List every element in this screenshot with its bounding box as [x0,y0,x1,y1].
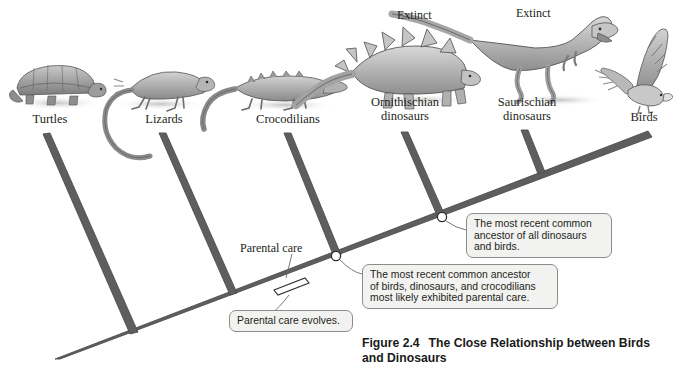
callout-archosaur-ancestor: The most recent common ancestor of birds… [362,264,558,309]
leader-archosaur-ancestor [340,260,362,274]
callout-line: and birds. [474,241,605,253]
leader-parental-care-label [286,254,292,278]
callout-line: of birds, dinosaurs, and crocodilians [370,281,551,293]
leader-dinosaur-bird-ancestor [446,221,466,230]
tip-label-saurischian-line1: Saurischian [498,95,556,109]
parental-care-marker [274,278,309,295]
callout-line: most likely exhibited parental care. [370,292,551,304]
callout-line: The most recent common [474,218,605,230]
branch-lizards [159,133,237,295]
callout-line: The most recent common ancestor [370,269,551,281]
callout-line: Parental care evolves. [237,315,346,327]
extinct-label-saurischian: Extinct [516,6,551,21]
branch-ornithischian [401,132,446,220]
tip-label-ornithischian-dinosaurs: Ornithischian dinosaurs [360,96,450,123]
figure-caption-number: Figure 2.4 [362,336,420,350]
figure-caption: Figure 2.4The Close Relationship between… [362,336,650,366]
tip-label-saurischian-dinosaurs: Saurischian dinosaurs [484,96,570,123]
tip-label-turtles: Turtles [17,113,83,127]
node-archosaur-ancestor [331,251,340,260]
branch-turtles [43,133,138,334]
tip-label-lizards: Lizards [131,113,197,127]
callout-line: ancestor of all dinosaurs [474,230,605,242]
parental-care-trait-label: Parental care [240,241,302,256]
figure-caption-title-line2: and Dinosaurs [362,351,650,366]
tip-label-crocodilians: Crocodilians [240,113,336,127]
branch-crocodilians [284,133,341,257]
callout-dinosaur-bird-ancestor: The most recent common ancestor of all d… [466,213,612,258]
tip-label-ornithischian-line2: dinosaurs [381,109,429,123]
branch-saurischian [521,130,545,174]
tip-label-ornithischian-line1: Ornithischian [371,95,439,109]
tip-label-birds: Birds [619,111,669,125]
callout-parental-care-evolves: Parental care evolves. [229,310,353,332]
figure-caption-title: The Close Relationship between Birds [429,336,650,350]
tip-label-saurischian-line2: dinosaurs [503,109,551,123]
extinct-label-ornithischian: Extinct [397,8,432,23]
node-dinosaur-bird-ancestor [437,212,446,221]
